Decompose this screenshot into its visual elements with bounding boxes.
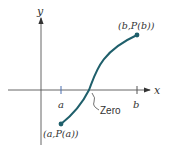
intermediate-value-diagram: x y a b (a,P(a)) (b,P(b)) Zero — [0, 0, 173, 150]
zero-pointer — [92, 93, 99, 110]
point-b-icon — [135, 33, 140, 38]
tick-label-b: b — [133, 99, 139, 110]
y-axis-label: y — [36, 5, 44, 18]
point-a-icon — [59, 122, 64, 127]
tick-label-a: a — [58, 99, 64, 110]
end-point-label: (b,P(b)) — [118, 20, 155, 31]
x-axis-label: x — [154, 84, 161, 97]
start-point-label: (a,P(a)) — [43, 128, 79, 139]
zero-label: Zero — [100, 105, 121, 116]
function-curve — [61, 35, 137, 124]
